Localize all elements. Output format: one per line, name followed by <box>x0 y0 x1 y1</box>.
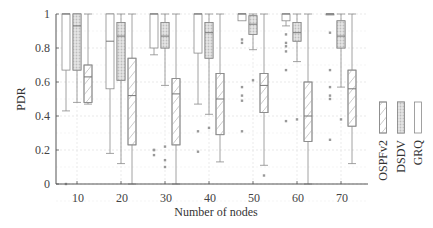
box-grq-60 <box>282 14 290 122</box>
y-tick-label: 0.8 <box>35 41 50 55</box>
x-tick-label: 20 <box>116 191 128 205</box>
legend-item-ospfv2: OSPFv2 <box>376 102 390 181</box>
legend-label: DSDV <box>394 140 408 173</box>
box-ospfv2-40 <box>216 14 224 162</box>
box-dsdv-20 <box>117 14 125 164</box>
box-grq-10 <box>62 14 70 185</box>
y-axis-label: PDR <box>14 87 28 110</box>
y-tick-label: 0.4 <box>35 109 50 123</box>
x-tick-label: 40 <box>204 191 216 205</box>
y-tick-label: 1 <box>44 7 50 21</box>
legend-item-grq: GRQ <box>411 102 425 165</box>
x-tick-label: 60 <box>292 191 304 205</box>
box-ospfv2-30 <box>172 14 180 184</box>
legend-label: OSPFv2 <box>376 140 390 181</box>
box-ospfv2-70 <box>348 14 356 164</box>
box-grq-20 <box>106 14 114 153</box>
y-tick-label: 0 <box>44 177 50 191</box>
box-ospfv2-60 <box>304 14 312 184</box>
box-dsdv-40 <box>205 14 213 129</box>
x-tick-label: 50 <box>248 191 260 205</box>
x-tick-label: 30 <box>160 191 172 205</box>
legend-label: GRQ <box>411 140 425 166</box>
legend: OSPFv2DSDVGRQ <box>376 102 425 181</box>
legend-item-dsdv: DSDV <box>394 102 408 173</box>
box-grq-30 <box>150 14 158 156</box>
box-grq-70 <box>326 14 334 141</box>
box-ospfv2-20 <box>128 14 136 184</box>
box-plot-chart: 00.20.40.60.8110203040506070Number of no… <box>0 0 433 228</box>
x-axis-label: Number of nodes <box>174 205 258 219</box>
box-dsdv-70 <box>337 14 345 121</box>
x-tick-label: 10 <box>72 191 84 205</box>
y-tick-label: 0.2 <box>35 143 50 157</box>
box-ospfv2-50 <box>260 14 268 177</box>
y-tick-label: 0.6 <box>35 75 50 89</box>
x-tick-label: 70 <box>336 191 348 205</box>
box-grq-40 <box>194 14 202 153</box>
box-dsdv-10 <box>73 14 81 102</box>
box-ospfv2-10 <box>84 14 92 104</box>
box-grq-50 <box>238 14 246 133</box>
